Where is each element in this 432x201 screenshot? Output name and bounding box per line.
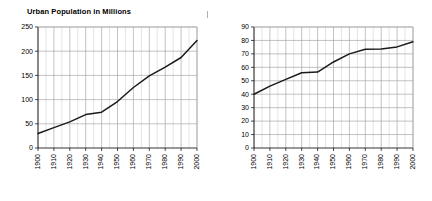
y-tick-label: 20 — [241, 117, 249, 124]
x-tick-label: 1990 — [393, 154, 400, 170]
x-tick-label: 1910 — [266, 154, 273, 170]
x-tick-label: 1950 — [113, 154, 120, 170]
y-tick-label: 30 — [241, 104, 249, 111]
urban-population-y-axis-labels: 050100150200250 — [21, 23, 38, 151]
x-tick-label: 1950 — [329, 154, 336, 170]
y-tick-label: 70 — [241, 50, 249, 57]
y-tick-label: 200 — [21, 48, 33, 55]
x-tick-label: 1930 — [298, 154, 305, 170]
y-tick-label: 50 — [241, 77, 249, 84]
x-tick-label: 1920 — [66, 154, 73, 170]
line-chart-urban-population: 0501001502002501900191019201930194019501… — [0, 0, 216, 201]
x-tick-label: 1940 — [97, 154, 104, 170]
y-tick-label: 10 — [241, 131, 249, 138]
x-tick-label: 2000 — [409, 154, 416, 170]
percent-urban-x-axis-labels: 1900191019201930194019501960197019801990… — [250, 148, 416, 170]
x-tick-label: 1980 — [161, 154, 168, 170]
line-chart-percent-urban: 0102030405060708090190019101920193019401… — [216, 0, 432, 201]
y-tick-label: 150 — [21, 72, 33, 79]
x-tick-label: 1980 — [377, 154, 384, 170]
x-tick-label: 1960 — [129, 154, 136, 170]
y-tick-label: 0 — [245, 144, 249, 151]
percent-urban-gridlines — [254, 27, 413, 148]
x-tick-label: 1900 — [34, 154, 41, 170]
x-tick-label: 1990 — [177, 154, 184, 170]
figure-container: Urban Population in Millions 05010015020… — [0, 0, 432, 201]
urban-population-gridlines — [38, 27, 197, 148]
x-tick-label: 1910 — [50, 154, 57, 170]
x-tick-label: 1970 — [361, 154, 368, 170]
chart-panel-urban-population: Urban Population in Millions 05010015020… — [0, 0, 216, 201]
x-tick-label: 2000 — [193, 154, 200, 170]
x-tick-label: 1930 — [82, 154, 89, 170]
chart-panel-percent-urban: Percent Urban 01020304050607080901900191… — [216, 0, 432, 201]
x-tick-label: 1970 — [145, 154, 152, 170]
y-tick-label: 50 — [25, 120, 33, 127]
stray-tick-mark — [207, 11, 208, 18]
urban-population-x-axis-labels: 1900191019201930194019501960197019801990… — [34, 148, 200, 170]
x-tick-label: 1900 — [250, 154, 257, 170]
x-tick-label: 1920 — [282, 154, 289, 170]
y-tick-label: 60 — [241, 64, 249, 71]
y-tick-label: 80 — [241, 37, 249, 44]
y-tick-label: 90 — [241, 23, 249, 30]
y-tick-label: 250 — [21, 23, 33, 30]
y-tick-label: 0 — [29, 144, 33, 151]
percent-urban-y-axis-labels: 0102030405060708090 — [241, 23, 254, 151]
x-tick-label: 1960 — [345, 154, 352, 170]
y-tick-label: 100 — [21, 96, 33, 103]
x-tick-label: 1940 — [313, 154, 320, 170]
y-tick-label: 40 — [241, 91, 249, 98]
